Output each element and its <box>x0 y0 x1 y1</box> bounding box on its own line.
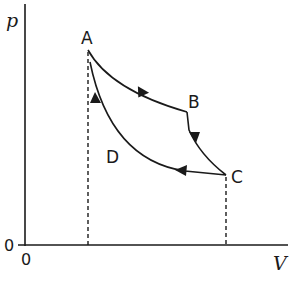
process-b-to-c <box>187 112 226 175</box>
point-c-label: C <box>231 167 243 187</box>
point-a-label: A <box>81 28 93 48</box>
arrow-a-to-b-icon <box>136 86 149 99</box>
point-d-label: D <box>106 147 119 167</box>
y-axis-label: p <box>6 9 18 31</box>
point-b-label: B <box>188 92 200 112</box>
x-axis-label: V <box>273 252 289 274</box>
y-origin-label: 0 <box>4 236 14 255</box>
x-origin-label: 0 <box>21 250 31 269</box>
pv-diagram: p V 0 0 A B C D <box>0 0 295 281</box>
arrow-c-to-d-icon <box>175 165 187 176</box>
